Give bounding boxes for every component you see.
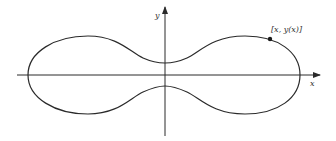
y-axis-label: y [154,11,160,20]
curve-point-marker [268,37,272,41]
curve-diagram: [x, y(x)] x y [0,0,336,141]
x-axis-label: x [310,79,315,88]
diagram-canvas: [x, y(x)] x y [0,0,336,141]
point-label: [x, y(x)] [271,25,303,34]
